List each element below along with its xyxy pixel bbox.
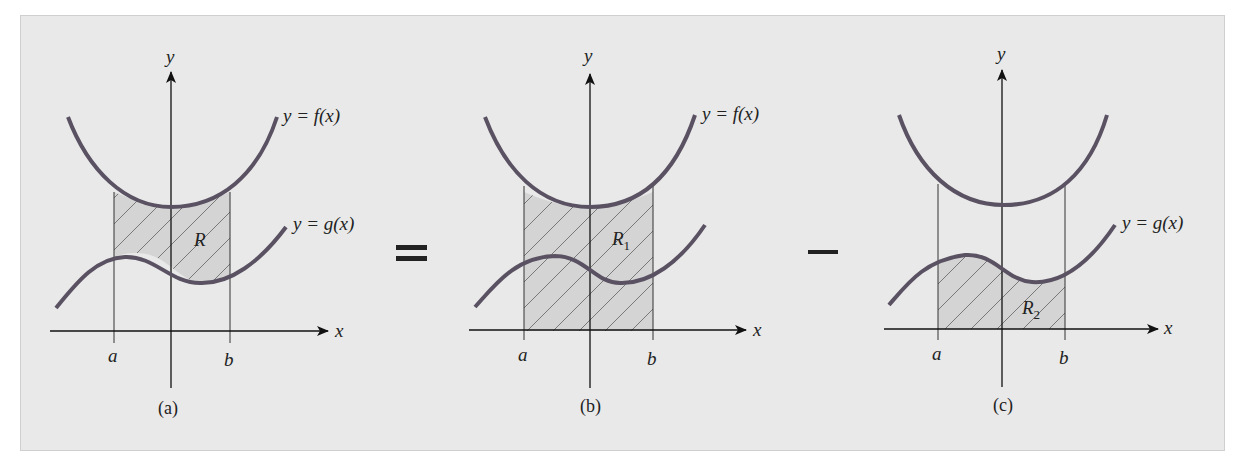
- b-label: b: [1059, 347, 1069, 368]
- area-between-curves-figure: y x a b y = f(x) y = g(x) R (a) y x a b …: [0, 0, 1237, 465]
- minus-operator: [808, 250, 838, 254]
- g-label: y = g(x): [291, 213, 354, 235]
- a-label: a: [932, 343, 942, 364]
- y-axis-label: y: [995, 43, 1006, 64]
- b-label: b: [224, 349, 234, 370]
- equals-operator: [396, 245, 427, 261]
- g-label: y = g(x): [1120, 212, 1183, 234]
- x-axis-label: x: [334, 320, 344, 341]
- a-label: a: [518, 344, 528, 365]
- y-axis-label: y: [164, 46, 175, 67]
- f-label: y = f(x): [281, 105, 340, 127]
- x-axis-label: x: [1163, 317, 1173, 338]
- region-r-shading: [100, 180, 250, 300]
- panel-b: y x a b y = f(x) R1 (b): [469, 45, 762, 417]
- panel-a: y x a b y = f(x) y = g(x) R (a): [50, 46, 354, 419]
- a-label: a: [108, 345, 118, 366]
- y-axis-label: y: [582, 45, 593, 66]
- curve-f: [899, 115, 1107, 205]
- panel-c: y x a b y = g(x) R2 (c): [884, 43, 1183, 416]
- region-r2-shading: [925, 240, 1085, 340]
- curve-f: [68, 117, 277, 207]
- b-label: b: [647, 348, 657, 369]
- panel-caption: (c): [993, 395, 1013, 416]
- panel-caption: (b): [580, 396, 601, 417]
- region-label: R: [193, 229, 206, 250]
- panel-caption: (a): [158, 398, 178, 419]
- f-label: y = f(x): [700, 103, 759, 125]
- x-axis-label: x: [752, 319, 762, 340]
